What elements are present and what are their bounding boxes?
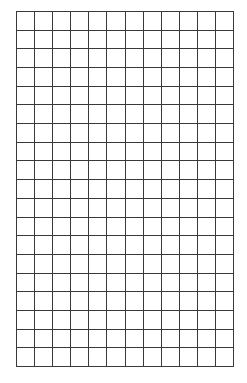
graph-paper-grid — [16, 11, 233, 366]
grid-lines — [16, 11, 234, 367]
